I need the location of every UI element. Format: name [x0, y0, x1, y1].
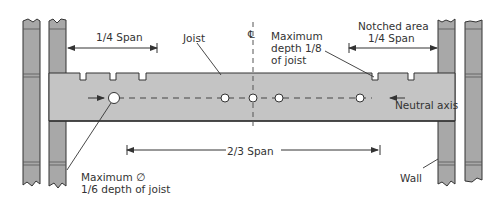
wall-leader	[423, 159, 438, 168]
two-thirds-span-label: 2/3 Span	[227, 145, 274, 157]
joist-label: Joist	[183, 32, 205, 44]
hole	[275, 94, 283, 102]
neutral-axis-label: Neutral axis	[395, 99, 458, 111]
quarter-span-left-label: 1/4 Span	[96, 31, 143, 43]
notched-area-line2: 1/4 Span	[368, 32, 415, 44]
max-depth-line3: of joist	[271, 54, 306, 66]
notched-area-line1: Notched area	[358, 20, 429, 32]
hole	[221, 94, 229, 102]
max-diameter-line1: Maximum ∅	[81, 171, 145, 183]
max-depth-line2: depth 1/8	[271, 42, 322, 54]
max-depth-line1: Maximum	[271, 30, 323, 42]
hole	[356, 94, 364, 102]
large-hole	[109, 93, 120, 104]
joist-diagram: 1/4 Span Joist ℄ Maximum depth 1/8 of jo…	[0, 0, 502, 197]
centerline-symbol: ℄	[248, 28, 255, 40]
max-diameter-line2: 1/6 depth of joist	[81, 183, 170, 195]
hole-center	[249, 94, 257, 102]
left-outer-wall	[23, 19, 40, 186]
joist-leader	[197, 43, 221, 75]
right-outer-wall	[465, 20, 482, 182]
wall-label: Wall	[400, 172, 422, 184]
